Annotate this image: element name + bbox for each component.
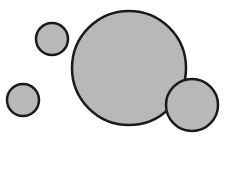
small-circle-left — [7, 84, 39, 116]
small-circle-top-left — [36, 23, 68, 55]
medium-circle-right — [166, 79, 218, 131]
circle-diagram — [0, 0, 233, 175]
